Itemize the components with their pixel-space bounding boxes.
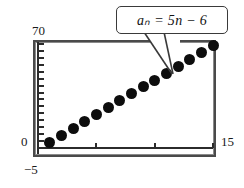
data-point [184,54,195,65]
x-axis-tick [95,143,97,148]
y-axis-tick [39,64,44,66]
y-axis-tick [39,112,44,114]
data-point [208,40,219,51]
x-axis-tick [154,143,156,148]
data-point [91,109,102,120]
formula-text: aₙ = 5n − 6 [137,12,207,29]
callout-border-gap [150,36,180,44]
data-point [56,130,67,141]
y-min-label: −5 [24,163,38,176]
y-max-label: 70 [32,24,45,37]
data-point [173,61,184,72]
y-axis-tick [39,126,44,128]
y-axis-tick [39,133,44,135]
y-axis-tick [39,92,44,94]
data-point [68,123,79,134]
data-point [138,81,149,92]
y-axis-tick [39,43,44,45]
origin-label: 0 [21,135,28,148]
y-axis-tick [39,71,44,73]
formula-callout: aₙ = 5n − 6 [116,6,228,34]
x-axis-tick [37,143,39,148]
x-axis-tick [212,143,214,148]
calculator-graph-figure: 70 0 −5 15 aₙ = 5n − 6 [0,0,244,188]
x-max-label: 15 [221,135,234,148]
data-point [103,102,114,113]
y-axis-tick [39,57,44,59]
y-axis-tick [39,85,44,87]
y-axis-tick [39,50,44,52]
data-point [161,68,172,79]
y-axis-tick [39,78,44,80]
data-point [149,75,160,86]
y-axis-tick [39,119,44,121]
x-axis-line [37,147,213,149]
y-axis-tick [39,147,44,149]
y-axis-tick [39,98,44,100]
y-axis-tick [39,105,44,107]
data-point [196,47,207,58]
